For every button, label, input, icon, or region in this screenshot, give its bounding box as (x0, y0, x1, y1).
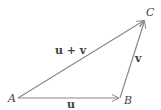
point-label-b: B (123, 94, 132, 107)
vector-triangle-diagram: A B C u v u + v (0, 0, 161, 110)
point-label-c: C (146, 6, 155, 19)
vector-label-u-plus-v: u + v (55, 44, 87, 57)
point-label-a: A (7, 92, 16, 105)
vector-label-u: u (67, 98, 75, 110)
vector-label-v: v (134, 52, 142, 65)
vector-u-plus-v-arrow (18, 21, 144, 99)
